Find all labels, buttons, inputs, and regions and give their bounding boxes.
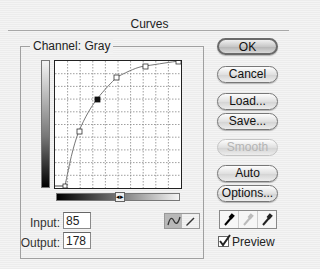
checkmark-icon bbox=[218, 234, 231, 247]
white-eyedropper-icon bbox=[261, 213, 273, 227]
options-button[interactable]: Options... bbox=[217, 185, 278, 202]
curve-icon bbox=[167, 216, 181, 226]
load-button[interactable]: Load... bbox=[217, 93, 278, 110]
save-button[interactable]: Save... bbox=[217, 113, 278, 130]
output-label: Output: bbox=[14, 236, 60, 250]
curve-mode-selector bbox=[164, 213, 200, 229]
dialog-title: Curves bbox=[0, 17, 299, 31]
channel-selector[interactable]: Channel: Gray bbox=[30, 39, 113, 53]
output-field[interactable] bbox=[63, 232, 91, 249]
black-point-eyedropper[interactable] bbox=[220, 211, 239, 228]
pencil-icon bbox=[185, 215, 197, 227]
pencil-mode-button[interactable] bbox=[182, 214, 199, 228]
curve-graph[interactable] bbox=[54, 60, 182, 189]
input-label: Input: bbox=[20, 216, 60, 230]
title-divider bbox=[8, 30, 289, 31]
ok-button[interactable]: OK bbox=[217, 38, 278, 55]
curve-svg bbox=[55, 61, 181, 188]
preview-label: Preview bbox=[232, 235, 275, 249]
preview-checkbox[interactable] bbox=[218, 236, 229, 247]
input-field[interactable] bbox=[63, 212, 91, 229]
auto-button[interactable]: Auto bbox=[217, 165, 278, 182]
gray-point-eyedropper[interactable] bbox=[239, 211, 258, 228]
tone-curve bbox=[65, 61, 180, 186]
channel-value: Gray bbox=[84, 39, 110, 53]
gradient-direction-toggle-icon[interactable]: ◂▸ bbox=[115, 192, 125, 202]
curve-mode-button[interactable] bbox=[165, 214, 182, 228]
cancel-button[interactable]: Cancel bbox=[217, 66, 278, 83]
eyedropper-group bbox=[219, 210, 277, 229]
gray-eyedropper-icon bbox=[242, 213, 254, 227]
output-gradient-bar bbox=[41, 60, 50, 188]
title-bar: Curves bbox=[0, 0, 299, 30]
white-point-eyedropper[interactable] bbox=[258, 211, 276, 228]
black-eyedropper-icon bbox=[223, 213, 235, 227]
smooth-button[interactable]: Smooth bbox=[217, 139, 278, 156]
channel-label: Channel: bbox=[33, 39, 81, 53]
